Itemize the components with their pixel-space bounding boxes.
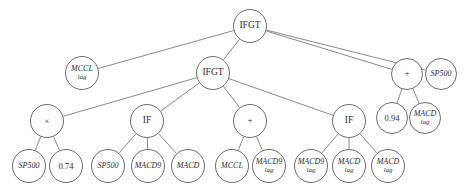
tree-node-n4: SP500 bbox=[425, 58, 457, 90]
tree-node-n1: MCCLlag bbox=[65, 56, 99, 90]
tree-node-label: + bbox=[404, 69, 409, 78]
tree-node-n0: IFGT bbox=[233, 9, 267, 43]
tree-node-label: IFGT bbox=[239, 21, 260, 31]
tree-node-sublabel: lag bbox=[384, 167, 393, 174]
tree-node-n5: 0.94 bbox=[376, 102, 408, 134]
tree-node-label: MCCL bbox=[221, 162, 243, 170]
tree-node-n3: + bbox=[391, 58, 423, 90]
tree-node-n17: MACD9lag bbox=[252, 149, 286, 183]
tree-node-label: SP500 bbox=[19, 162, 40, 170]
tree-node-label: IF bbox=[143, 116, 151, 126]
tree-node-n10: IF bbox=[332, 104, 366, 138]
tree-node-sublabel: lag bbox=[421, 119, 430, 126]
tree-node-n11: SP500 bbox=[12, 149, 46, 183]
tree-node-sublabel: lag bbox=[345, 167, 354, 174]
tree-node-n20: MACDlag bbox=[371, 149, 405, 183]
tree-node-n13: SP500 bbox=[91, 149, 125, 183]
tree-node-n8: IF bbox=[130, 104, 164, 138]
tree-node-sublabel: lag bbox=[78, 74, 87, 81]
tree-node-n14: MACD9 bbox=[131, 149, 165, 183]
tree-node-label: × bbox=[45, 117, 50, 126]
tree-node-n15: MACD bbox=[171, 149, 205, 183]
tree-node-n9: + bbox=[233, 104, 267, 138]
tree-node-n6: MACDlag bbox=[409, 102, 441, 134]
tree-node-label: MACD bbox=[177, 162, 200, 170]
tree-node-sublabel: lag bbox=[265, 167, 274, 174]
tree-node-layer: IFGTMCCLlagIFGT+SP5000.94MACDlag×IF+IFSP… bbox=[0, 0, 473, 194]
tree-node-label: SP500 bbox=[98, 162, 119, 170]
tree-node-label: MACD9 bbox=[135, 162, 162, 170]
tree-node-n2: IFGT bbox=[196, 56, 230, 90]
tree-node-label: IF bbox=[345, 116, 353, 126]
tree-node-label: 0.74 bbox=[59, 162, 74, 171]
tree-node-n19: MACDlag bbox=[332, 149, 366, 183]
expression-tree-figure: IFGTMCCLlagIFGT+SP5000.94MACDlag×IF+IFSP… bbox=[0, 0, 473, 194]
tree-node-label: IFGT bbox=[202, 68, 223, 78]
tree-node-n16: MCCL bbox=[215, 149, 249, 183]
tree-node-n12: 0.74 bbox=[49, 149, 83, 183]
tree-node-label: SP500 bbox=[431, 70, 452, 78]
tree-node-label: 0.94 bbox=[385, 114, 400, 123]
tree-node-n18: MACD9lag bbox=[294, 149, 328, 183]
tree-node-sublabel: lag bbox=[307, 167, 316, 174]
tree-node-n7: × bbox=[30, 104, 64, 138]
tree-node-label: + bbox=[247, 116, 252, 125]
